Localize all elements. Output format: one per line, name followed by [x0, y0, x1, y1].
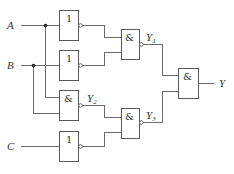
output-label-y: Y: [219, 77, 227, 89]
gate-not-a: 1: [60, 11, 83, 41]
wire-a-branch: [46, 26, 60, 98]
gate-nand-y3: &: [122, 109, 144, 139]
gate-nand-y2: &: [60, 91, 83, 121]
label-y1: Y1: [146, 31, 156, 45]
wire-g1-g5: [81, 26, 122, 38]
wire-g4-g6: [81, 133, 122, 147]
gate-symbol: &: [64, 93, 73, 104]
gate-symbol: 1: [66, 53, 72, 64]
gate-symbol: &: [125, 32, 134, 43]
gate-not-c: 1: [60, 132, 83, 162]
junction-dot-b: [32, 64, 36, 68]
gate-symbol: 1: [66, 13, 72, 24]
input-label-b: B: [7, 59, 14, 71]
wire-y1-g7: [142, 45, 179, 76]
wire-g2-g5: [81, 53, 122, 66]
gate-nand-y1: &: [122, 30, 144, 60]
inversion-bubble: [79, 64, 83, 68]
inversion-bubble: [140, 43, 144, 47]
gate-symbol: &: [183, 71, 192, 82]
input-label-c: C: [7, 140, 15, 152]
junction-dot-a: [44, 24, 48, 28]
wire-b-branch: [34, 66, 60, 114]
logic-circuit-diagram: A B C 1 1: [0, 0, 234, 174]
input-label-a: A: [6, 19, 14, 31]
gate-symbol: &: [125, 111, 134, 122]
gate-and-output: &: [179, 69, 199, 99]
inversion-bubble: [79, 104, 83, 108]
inversion-bubble: [140, 121, 144, 125]
label-y3: Y3: [146, 109, 156, 123]
gate-not-b: 1: [60, 51, 83, 81]
wire-y2-g6: [81, 106, 122, 118]
inversion-bubble: [79, 145, 83, 149]
gate-symbol: 1: [66, 134, 72, 145]
label-y2: Y2: [87, 92, 97, 106]
inversion-bubble: [79, 24, 83, 28]
